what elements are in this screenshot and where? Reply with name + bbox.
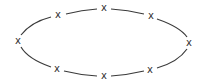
edge-top-to-top-right <box>111 9 144 14</box>
node-marker: x <box>15 35 21 46</box>
node-marker: x <box>101 2 107 13</box>
node-marker: x <box>186 37 192 48</box>
node-marker: x <box>101 70 107 81</box>
node-marker: x <box>55 9 61 20</box>
edge-top-left-to-top <box>66 9 97 14</box>
edge-right-to-bottom-right <box>157 49 187 68</box>
ellipse-cycle-diagram: x x x x x x x x <box>0 0 205 84</box>
node-marker: x <box>148 10 154 21</box>
edge-bottom-right-to-bottom <box>111 71 144 76</box>
edges <box>21 9 187 76</box>
nodes: x x x x x x x x <box>15 2 192 81</box>
edge-bottom-to-bottom-left <box>64 71 97 76</box>
edge-bottom-left-to-left <box>21 47 51 67</box>
node-marker: x <box>54 63 60 74</box>
edge-left-to-top-left <box>21 17 51 35</box>
edge-top-right-to-right <box>157 19 187 37</box>
node-marker: x <box>147 64 153 75</box>
